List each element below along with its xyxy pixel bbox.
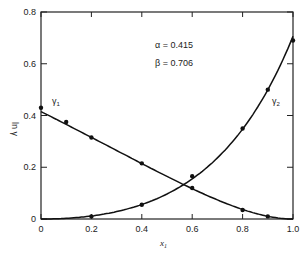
x-axis-label: x1 (159, 238, 167, 249)
gamma2-data-point (291, 38, 295, 42)
gamma1-data-point (266, 214, 270, 218)
x-tick-label: 0.6 (186, 224, 199, 234)
y-tick-label: 0.8 (23, 7, 36, 17)
gamma1-curve (41, 112, 293, 219)
y-axis-label: ln γ (10, 122, 20, 137)
alpha-annotation: α = 0.415 (155, 40, 193, 50)
gamma2-data-point (240, 126, 244, 130)
y-tick-label: 0.2 (23, 162, 36, 172)
x-tick-label: 0.8 (236, 224, 249, 234)
gamma1-data-point (89, 135, 93, 139)
y-tick-label: 0.4 (23, 111, 36, 121)
gamma2-data-point (190, 174, 194, 178)
y-tick-label: 0.6 (23, 59, 36, 69)
gamma2-data-point (266, 87, 270, 91)
x-tick-label: 0 (38, 224, 43, 234)
x-tick-label: 0.4 (136, 224, 149, 234)
gamma2-label: γ2 (272, 96, 281, 107)
gamma1-data-point (190, 186, 194, 190)
x-tick-label: 1.0 (287, 224, 300, 234)
gamma1-data-point (140, 161, 144, 165)
gamma2-data-point (89, 214, 93, 218)
gamma1-label: γ1 (52, 96, 61, 107)
gamma1-data-point (64, 120, 68, 124)
gamma2-data-point (140, 203, 144, 207)
gamma1-data-point (39, 106, 43, 110)
x-tick-label: 0.2 (85, 224, 98, 234)
chart-svg: 00.20.40.60.81.000.20.40.60.8 α = 0.415 … (0, 0, 304, 255)
gamma1-data-point (240, 208, 244, 212)
beta-annotation: β = 0.706 (155, 58, 193, 68)
y-tick-label: 0 (31, 214, 36, 224)
